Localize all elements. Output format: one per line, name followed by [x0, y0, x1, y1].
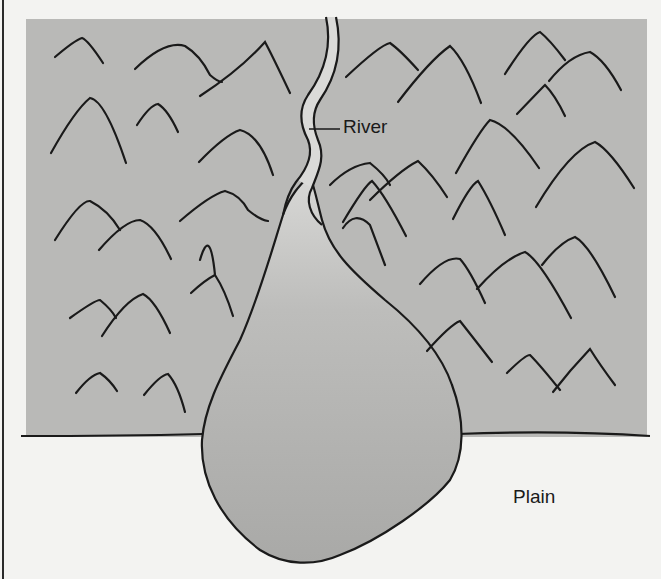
river-label: River — [343, 117, 387, 136]
landform-illustration — [0, 0, 661, 579]
diagram-frame: River Plain — [0, 0, 661, 579]
plain-label: Plain — [513, 487, 555, 506]
